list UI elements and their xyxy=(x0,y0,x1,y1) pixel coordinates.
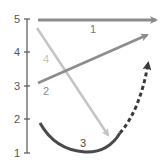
arrow-3: 3 xyxy=(40,64,148,152)
tick-label-4: 4 xyxy=(14,46,20,58)
arrow-1-label: 1 xyxy=(90,23,96,35)
arrow-2-label: 2 xyxy=(43,85,49,97)
arrow-1: 1 xyxy=(38,20,156,35)
tick-label-3: 3 xyxy=(14,80,20,92)
arrow-diagram: 5 4 3 2 1 1 4 2 3 xyxy=(0,0,165,163)
tick-label-2: 2 xyxy=(14,113,20,125)
tick-label-1: 1 xyxy=(14,147,20,159)
arrow-2: 2 xyxy=(38,35,147,97)
arrow-3-label: 3 xyxy=(80,137,86,149)
y-axis: 5 4 3 2 1 xyxy=(14,13,30,159)
tick-label-5: 5 xyxy=(14,13,20,25)
arrow-4-label: 4 xyxy=(43,53,49,65)
arrow-4: 4 xyxy=(37,28,108,135)
